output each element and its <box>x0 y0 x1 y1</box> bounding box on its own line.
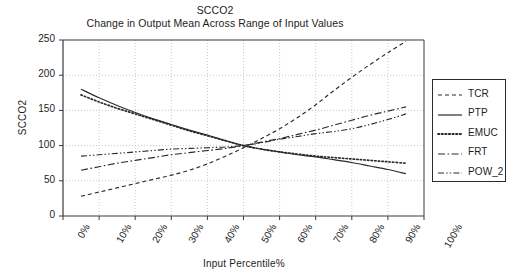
legend-item-ptp[interactable]: PTP <box>437 103 488 123</box>
legend-swatch-ptp-icon <box>437 107 463 119</box>
legend-swatch-emuc-icon <box>437 126 463 138</box>
legend-label: EMUC <box>468 127 498 138</box>
y-tick-label: 0 <box>19 209 55 220</box>
chart-legend: TCRPTPEMUCFRTPOW_2 <box>432 79 506 182</box>
y-tick-label: 50 <box>19 174 55 185</box>
legend-swatch-tcr-icon <box>437 87 463 99</box>
legend-label: POW_2 <box>468 166 504 177</box>
series-line-ptp <box>81 89 406 173</box>
legend-label: TCR <box>468 88 489 99</box>
legend-item-pow_2[interactable]: POW_2 <box>437 161 504 181</box>
legend-swatch-frt-icon <box>437 146 463 158</box>
series-line-pow_2 <box>81 114 406 156</box>
legend-item-tcr[interactable]: TCR <box>437 83 489 103</box>
chart-container: SCCO2 Change in Output Mean Across Range… <box>0 0 520 278</box>
y-tick-label: 250 <box>19 33 55 44</box>
legend-label: FRT <box>468 146 488 157</box>
legend-swatch-pow_2-icon <box>437 165 463 177</box>
legend-item-emuc[interactable]: EMUC <box>437 122 498 142</box>
y-tick-label: 150 <box>19 103 55 114</box>
y-tick-label: 200 <box>19 68 55 79</box>
y-tick-label: 100 <box>19 139 55 150</box>
legend-label: PTP <box>468 107 488 118</box>
series-line-emuc <box>81 95 406 163</box>
legend-item-frt[interactable]: FRT <box>437 142 488 162</box>
